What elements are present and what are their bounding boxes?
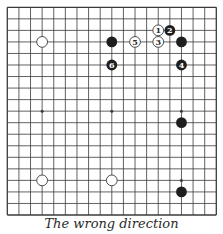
move-number: 3 [155,37,161,47]
go-board-diagram: 123456 [0,0,223,220]
black-stone [106,37,117,48]
white-stone [106,175,117,186]
black-stone [176,37,187,48]
star-point [180,179,183,182]
black-stone-move-4: 4 [176,60,187,71]
move-number: 2 [167,25,173,35]
black-stone [176,187,187,198]
white-stone-move-1: 1 [153,25,164,36]
star-point [180,110,183,113]
diagram-caption: The wrong direction [0,216,223,232]
white-stone-move-5: 5 [130,37,141,48]
move-number: 4 [179,60,185,70]
white-stone [37,175,48,186]
white-stone-move-3: 3 [153,37,164,48]
go-board: 123456 [0,0,223,220]
black-stone-move-6: 6 [106,60,117,71]
white-stone [37,37,48,48]
move-number: 1 [155,25,161,35]
star-point [110,110,113,113]
star-point [41,110,44,113]
black-stone-move-2: 2 [164,25,175,36]
move-number: 5 [132,37,138,47]
black-stone [176,117,187,128]
move-number: 6 [109,60,115,70]
